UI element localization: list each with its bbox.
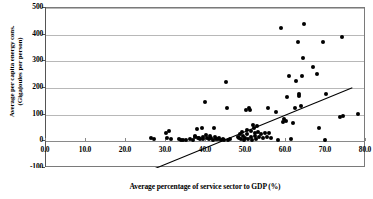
data-point — [297, 94, 301, 98]
data-point — [267, 131, 271, 135]
scatter-chart: 500 400 300 200 100 0 -100 0.0 10.0 20.0… — [0, 0, 373, 199]
data-point — [167, 129, 171, 133]
data-point — [285, 95, 289, 99]
data-point — [276, 138, 280, 142]
data-point — [269, 136, 273, 140]
data-point — [279, 26, 283, 30]
data-point — [225, 106, 229, 110]
data-point — [356, 112, 360, 116]
data-point — [299, 104, 303, 108]
data-point — [169, 137, 173, 141]
data-point — [340, 35, 344, 39]
data-point — [228, 137, 232, 141]
data-point — [294, 79, 298, 83]
data-point — [317, 126, 321, 130]
data-point — [152, 137, 156, 141]
data-point — [255, 124, 259, 128]
data-point — [224, 80, 228, 84]
data-point — [296, 40, 300, 44]
data-point — [200, 126, 204, 130]
data-series-layer — [0, 0, 373, 199]
data-point — [302, 22, 306, 26]
data-point — [315, 72, 319, 76]
data-point — [248, 108, 252, 112]
data-point — [323, 138, 327, 142]
data-point — [261, 136, 265, 140]
data-point — [324, 92, 328, 96]
data-point — [289, 137, 293, 141]
data-point — [195, 127, 199, 131]
data-point — [301, 56, 305, 60]
data-point — [311, 65, 315, 69]
data-point — [341, 114, 345, 118]
data-point — [203, 100, 207, 104]
y-axis-title: Average per capita energy cons. (Gigajou… — [8, 1, 25, 141]
y-axis-title-line2: (Gigajoules per person) — [16, 1, 24, 141]
x-axis-title: Average percentage of service sector to … — [45, 182, 365, 191]
data-point — [265, 135, 269, 139]
data-point — [266, 106, 270, 110]
y-axis-title-line1: Average per capita energy cons. — [8, 1, 16, 141]
data-point — [284, 119, 288, 123]
data-point — [212, 126, 216, 130]
data-point — [321, 40, 325, 44]
data-point — [287, 74, 291, 78]
data-point — [300, 74, 304, 78]
data-point — [291, 121, 295, 125]
data-point — [293, 106, 297, 110]
data-point — [274, 110, 278, 114]
